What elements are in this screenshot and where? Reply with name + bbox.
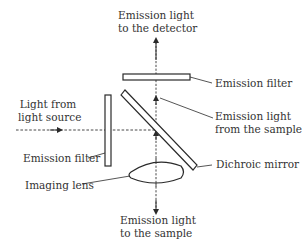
- label-line: Light from: [18, 98, 78, 111]
- label-line: Emission light: [215, 110, 302, 123]
- leader-line: [190, 77, 212, 83]
- imaging-lens: [129, 162, 184, 183]
- label-emission-filter-top: Emission filter: [215, 77, 292, 90]
- label-dichroic-mirror: Dichroic mirror: [216, 158, 299, 171]
- label-line: from the sample: [215, 123, 302, 136]
- label-line: to the sample: [120, 227, 192, 240]
- label-imaging-lens: Imaging lens: [25, 179, 94, 192]
- leader-line: [197, 165, 212, 167]
- label-light-source: Light from light source: [18, 98, 78, 123]
- emission-filter-left: [105, 95, 111, 166]
- leader-line: [160, 98, 213, 118]
- emission-filter-top: [123, 74, 190, 80]
- label-line: Emission light: [120, 214, 192, 227]
- label-line: Emission light: [118, 9, 194, 22]
- label-emission-to-sample: Emission light to the sample: [120, 214, 192, 239]
- label-emission-to-detector: Emission light to the detector: [118, 9, 194, 34]
- label-emission-from-sample: Emission light from the sample: [215, 110, 302, 135]
- label-line: to the detector: [118, 22, 194, 35]
- label-line: light source: [18, 111, 78, 124]
- label-emission-filter-left: Emission filter: [23, 152, 100, 165]
